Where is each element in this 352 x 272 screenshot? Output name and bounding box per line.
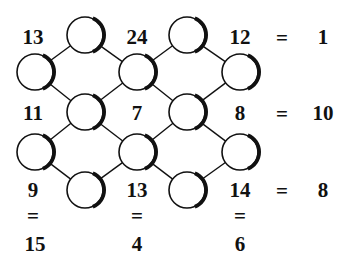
row2-number-a: 11 xyxy=(23,103,43,124)
connector-line xyxy=(201,123,225,141)
row3-number-a: 9 xyxy=(28,180,39,201)
answer-circle-d3[interactable] xyxy=(222,134,259,170)
connector-line xyxy=(100,45,123,61)
col-c-result: 6 xyxy=(235,234,246,255)
connector-line xyxy=(202,162,226,179)
answer-circle-a2[interactable] xyxy=(169,17,206,53)
answer-circle-d1[interactable] xyxy=(17,134,54,170)
row2-number-b: 7 xyxy=(132,103,143,124)
number-puzzle-diagram: 13 24 12 = 1 11 7 8 = 10 9 13 14 = 8 = =… xyxy=(0,0,352,272)
row3-number-c: 14 xyxy=(230,180,251,201)
connector-line xyxy=(202,45,225,61)
connector-line xyxy=(151,83,173,101)
connector-line xyxy=(99,83,122,101)
answer-circle-d2[interactable] xyxy=(119,134,156,170)
answer-circle-b3[interactable] xyxy=(222,54,259,90)
col-a-equals: = xyxy=(27,206,39,227)
circle-lattice xyxy=(0,0,352,272)
connector-line xyxy=(201,83,225,101)
row1-number-a: 13 xyxy=(23,27,44,48)
row1-result: 1 xyxy=(318,27,329,48)
col-b-result: 4 xyxy=(132,234,143,255)
answer-circle-a1[interactable] xyxy=(67,17,104,53)
answer-circle-c1[interactable] xyxy=(67,94,104,130)
answer-circle-c2[interactable] xyxy=(169,94,206,130)
row3-number-b: 13 xyxy=(127,180,148,201)
row3-equals: = xyxy=(276,181,288,202)
answer-circle-b1[interactable] xyxy=(17,54,54,90)
row2-number-c: 8 xyxy=(235,103,246,124)
connector-line xyxy=(99,123,122,141)
col-a-result: 15 xyxy=(25,234,46,255)
col-c-equals: = xyxy=(234,206,246,227)
row1-equals: = xyxy=(276,28,288,49)
connector-line xyxy=(49,163,70,179)
answer-circle-b2[interactable] xyxy=(119,54,156,90)
connector-line xyxy=(49,83,71,101)
answer-circle-e1[interactable] xyxy=(67,172,104,208)
answer-circle-e2[interactable] xyxy=(169,172,206,208)
row1-number-b: 24 xyxy=(127,27,148,48)
col-b-equals: = xyxy=(131,206,143,227)
connector-line xyxy=(49,46,70,62)
connector-line xyxy=(151,123,173,141)
row2-equals: = xyxy=(276,104,288,125)
row3-result: 8 xyxy=(318,180,329,201)
connector-line xyxy=(49,123,71,141)
row2-result: 10 xyxy=(313,103,334,124)
connector-line xyxy=(100,163,123,180)
row1-number-c: 12 xyxy=(230,27,251,48)
connector-line xyxy=(151,46,172,62)
connector-line xyxy=(151,163,172,179)
